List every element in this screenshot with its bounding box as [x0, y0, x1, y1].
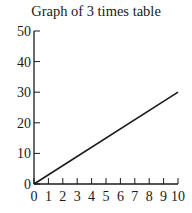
y-tick-label: 40: [17, 55, 31, 70]
x-tick-label: 6: [117, 189, 124, 204]
x-tick-label: 1: [45, 189, 52, 204]
x-tick-label: 3: [74, 189, 81, 204]
y-tick-label: 50: [17, 24, 31, 39]
x-tick-label: 4: [88, 189, 95, 204]
y-tick-label: 20: [17, 116, 31, 131]
x-tick-label: 9: [160, 189, 167, 204]
x-tick-label: 7: [131, 189, 138, 204]
series-line: [34, 92, 178, 184]
x-tick-label: 8: [146, 189, 153, 204]
x-tick-label: 5: [103, 189, 110, 204]
line-chart: 01020304050012345678910: [0, 0, 192, 213]
y-tick-label: 30: [17, 85, 31, 100]
x-tick-label: 0: [31, 189, 38, 204]
x-tick-label: 10: [171, 189, 185, 204]
y-tick-label: 10: [17, 146, 31, 161]
x-tick-label: 2: [59, 189, 66, 204]
